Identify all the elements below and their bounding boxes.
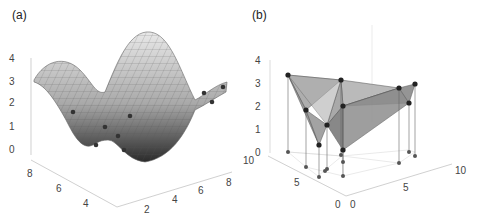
svg-text:4: 4 xyxy=(83,198,89,209)
svg-text:6: 6 xyxy=(56,183,62,194)
surface-plot-b: 4 3 2 1 0 10 5 0 0 5 10 xyxy=(240,0,480,222)
svg-text:8: 8 xyxy=(27,168,33,179)
x-axis-ticks-b: 0 5 10 xyxy=(350,165,467,210)
svg-text:3: 3 xyxy=(9,76,15,87)
panel-b: 4 3 2 1 0 10 5 0 0 5 10 xyxy=(240,0,480,222)
svg-text:5: 5 xyxy=(294,177,300,188)
svg-text:5: 5 xyxy=(403,182,409,193)
panel-a: 4 3 2 1 0 8 6 4 2 4 6 8 xyxy=(0,0,240,222)
svg-text:2: 2 xyxy=(255,101,261,112)
svg-text:2: 2 xyxy=(144,204,150,215)
z-axis-ticks-a: 4 3 2 1 0 xyxy=(9,53,15,155)
svg-text:3: 3 xyxy=(255,78,261,89)
svg-text:4: 4 xyxy=(172,194,178,205)
y-axis-ticks-b: 10 5 0 xyxy=(243,155,341,210)
panel-label-a: (a) xyxy=(12,8,27,22)
surface-plot-a: 4 3 2 1 0 8 6 4 2 4 6 8 xyxy=(0,0,240,222)
svg-text:0: 0 xyxy=(335,199,341,210)
svg-text:1: 1 xyxy=(255,124,261,135)
svg-text:0: 0 xyxy=(255,147,261,158)
z-axis-ticks-b: 4 3 2 1 0 xyxy=(255,55,261,158)
svg-text:10: 10 xyxy=(455,165,467,176)
y-axis-ticks-a: 8 6 4 xyxy=(27,168,89,209)
svg-text:1: 1 xyxy=(9,121,15,132)
svg-text:2: 2 xyxy=(9,97,15,108)
svg-text:8: 8 xyxy=(226,177,232,188)
svg-text:0: 0 xyxy=(9,144,15,155)
svg-text:4: 4 xyxy=(255,55,261,66)
svg-text:4: 4 xyxy=(9,53,15,64)
svg-text:0: 0 xyxy=(350,199,356,210)
panel-label-b: (b) xyxy=(252,8,267,22)
base-points-b xyxy=(286,150,417,179)
svg-text:6: 6 xyxy=(198,185,204,196)
x-axis-ticks-a: 2 4 6 8 xyxy=(144,177,232,215)
svg-text:10: 10 xyxy=(243,155,255,166)
